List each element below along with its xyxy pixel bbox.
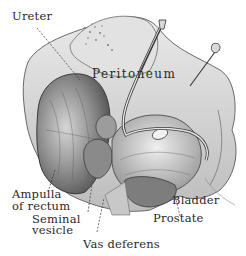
label-ureter: Ureter	[12, 11, 52, 22]
label-peritoneum: Peritoneum	[92, 69, 176, 80]
label-vesicle: vesicle	[32, 225, 73, 236]
anatomy-diagram: Ureter Peritoneum Ampulla of rectum Semi…	[0, 0, 246, 256]
label-vas-deferens: Vas deferens	[83, 239, 160, 250]
label-bladder: Bladder	[172, 195, 219, 206]
label-prostate: Prostate	[153, 213, 204, 224]
label-of-rectum: of rectum	[12, 201, 70, 212]
